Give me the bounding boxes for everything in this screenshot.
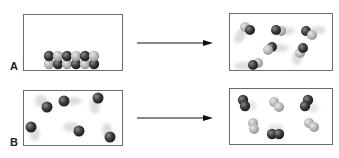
diagram-graphics xyxy=(0,0,339,158)
arrow-a xyxy=(137,40,213,46)
diagram-canvas: A B xyxy=(0,0,339,158)
panel-a-before-lattice xyxy=(44,51,99,69)
panel-b-before-atoms xyxy=(26,93,116,143)
panel-b-after-molecules xyxy=(238,95,319,139)
arrow-b xyxy=(137,115,213,121)
panel-a-after-molecules xyxy=(232,22,326,70)
